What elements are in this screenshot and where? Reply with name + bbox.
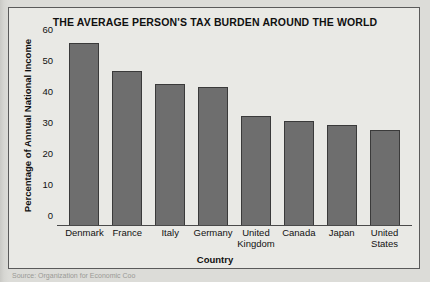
x-axis-category-labels: DenmarkFranceItalyGermanyUnited KingdomC… — [57, 228, 412, 249]
bar-slot — [106, 34, 149, 226]
chart-title: THE AVERAGE PERSON'S TAX BURDEN AROUND T… — [9, 16, 421, 28]
x-category-label: Denmark — [63, 228, 106, 249]
bar — [112, 71, 142, 226]
y-tick-label: 10 — [27, 179, 53, 190]
bar — [69, 43, 99, 226]
bar-slot — [320, 34, 363, 226]
bar — [370, 130, 400, 226]
bar-slot — [149, 34, 192, 226]
bar — [284, 121, 314, 226]
plot-area: 0102030405060 — [57, 34, 412, 226]
bar — [155, 84, 185, 226]
y-tick-label: 50 — [27, 55, 53, 66]
bar — [327, 125, 357, 226]
y-tick-label: 30 — [27, 117, 53, 128]
chart-frame: THE AVERAGE PERSON'S TAX BURDEN AROUND T… — [8, 7, 420, 269]
bar-slot — [235, 34, 278, 226]
x-category-label: Italy — [149, 228, 192, 249]
bar-slot — [63, 34, 106, 226]
x-category-label: Japan — [320, 228, 363, 249]
x-category-label: Germany — [192, 228, 235, 249]
source-note: Source: Organization for Economic Coo — [12, 272, 135, 279]
bar-slot — [192, 34, 235, 226]
y-tick-label: 0 — [27, 210, 53, 221]
chart-figure: THE AVERAGE PERSON'S TAX BURDEN AROUND T… — [0, 0, 430, 282]
x-category-label: France — [106, 228, 149, 249]
x-category-label: United Kingdom — [235, 228, 278, 249]
bar-series — [57, 34, 412, 226]
x-axis-label: Country — [9, 254, 421, 265]
bar-slot — [277, 34, 320, 226]
x-category-label: United States — [363, 228, 406, 249]
bar — [241, 116, 271, 226]
y-tick-label: 60 — [27, 24, 53, 35]
y-tick-label: 20 — [27, 148, 53, 159]
bar — [198, 87, 228, 226]
bar-slot — [363, 34, 406, 226]
x-axis-line — [57, 225, 412, 226]
x-category-label: Canada — [277, 228, 320, 249]
y-tick-label: 40 — [27, 86, 53, 97]
